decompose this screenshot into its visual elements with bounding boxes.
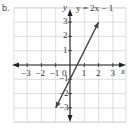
x-axis-label: x [121,67,125,76]
x-tick-label: 3 [110,69,115,78]
x-tick-label: −3 [21,69,31,78]
x-tick-label: 2 [96,69,101,78]
y-tick-label: −2 [59,89,69,98]
x-tick-label: 1 [82,69,87,78]
x-tick-label: −2 [35,69,45,78]
equation-label: y = 2x − 1 [76,4,113,13]
y-tick-label: 3 [63,17,68,26]
x-tick-label: −1 [50,69,60,78]
y-tick-label: −3 [59,103,69,112]
y-tick-label: 2 [63,31,68,40]
x-axis-left-arrow-icon [12,63,19,68]
y-axis-down-arrow-icon [68,115,73,122]
y-tick-label: 1 [63,46,68,55]
y-axis-up-arrow-icon [68,9,73,16]
y-axis-label: y [63,3,67,12]
origin-label: 0 [62,69,67,78]
